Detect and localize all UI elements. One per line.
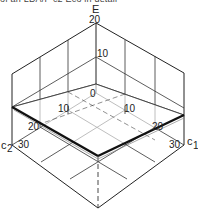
floor-front-right-edge [98, 145, 184, 208]
c2-tick-10: 10 [58, 103, 70, 114]
plane-fill [12, 84, 184, 156]
e-tick-20: 20 [89, 14, 101, 25]
e-tick-10: 10 [97, 48, 109, 59]
c1-tick-20: 20 [152, 121, 164, 132]
c1-axis-label: c 1 [187, 135, 198, 151]
c1-axis-sub: 1 [193, 140, 198, 151]
c2-axis-label: c 2 [1, 139, 13, 154]
right-wall-top-edge [96, 23, 184, 73]
origin-label: 0 [90, 88, 96, 99]
c1-tick-10: 10 [124, 103, 136, 114]
c2-tick-30: 30 [18, 139, 30, 150]
3d-plot-diagram: E 20 10 0 10 20 30 10 20 30 c 2 c 1 [0, 0, 198, 212]
floor-front-left-edge [12, 145, 98, 208]
left-wall-top-edge [12, 23, 96, 74]
c2-axis-sub: 2 [7, 143, 13, 154]
c1-tick-30: 30 [169, 139, 181, 150]
c2-tick-20: 20 [28, 121, 40, 132]
